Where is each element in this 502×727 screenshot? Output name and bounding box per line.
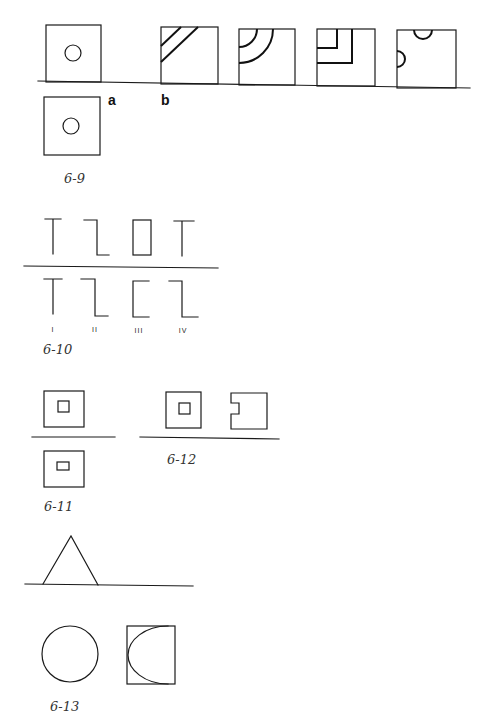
candidate-square-a-icon <box>44 97 100 155</box>
diagonal-bands-square-icon <box>161 27 218 84</box>
label-a: a <box>108 92 116 108</box>
caption-6-10: 6-10 <box>43 342 72 357</box>
figure-6-11: 6-11 <box>32 391 115 514</box>
figure-6-9: a b 6-9 <box>38 25 470 186</box>
t-shape-icon <box>45 219 61 254</box>
option-i-t-shape-icon <box>44 279 62 314</box>
t-shape-icon <box>174 221 194 256</box>
label-i: I <box>52 326 55 333</box>
caption-6-13: 6-13 <box>50 699 79 714</box>
reference-square-icon <box>46 25 101 82</box>
label-ii: II <box>92 326 98 333</box>
square-with-inner-rectangle-icon <box>44 451 84 487</box>
option-iii-c-bracket-icon <box>133 281 149 317</box>
label-iv: IV <box>179 327 188 334</box>
divider-6-12 <box>140 437 279 439</box>
caption-6-12: 6-12 <box>167 452 196 467</box>
square-with-half-ellipse-icon <box>127 626 175 684</box>
z-bracket-icon <box>84 220 109 255</box>
square-with-inner-square-icon <box>166 392 201 428</box>
label-iii: III <box>135 327 144 334</box>
notched-square-icon <box>231 393 267 429</box>
quarter-arcs-square-icon <box>239 29 295 85</box>
label-b: b <box>161 92 170 108</box>
figure-6-13: 6-13 <box>25 536 193 714</box>
caption-6-9: 6-9 <box>64 171 85 186</box>
triangle-icon <box>43 536 98 585</box>
figure-canvas: a b 6-9 I II III IV 6-10 6-11 <box>0 0 502 727</box>
rectangle-icon <box>133 220 151 255</box>
caption-6-11: 6-11 <box>44 499 73 514</box>
square-with-inner-square-icon <box>44 391 84 427</box>
semicircle-notches-square-icon <box>397 30 456 88</box>
figure-6-12: 6-12 <box>140 392 279 467</box>
figure-6-10: I II III IV 6-10 <box>24 219 218 357</box>
option-iv-z-bracket-icon <box>169 281 198 317</box>
divider-6-10 <box>24 266 218 268</box>
circle-icon <box>42 626 98 682</box>
baseline-6-13 <box>25 584 193 586</box>
option-ii-z-bracket-icon <box>81 279 108 316</box>
nested-corners-square-icon <box>317 29 375 86</box>
